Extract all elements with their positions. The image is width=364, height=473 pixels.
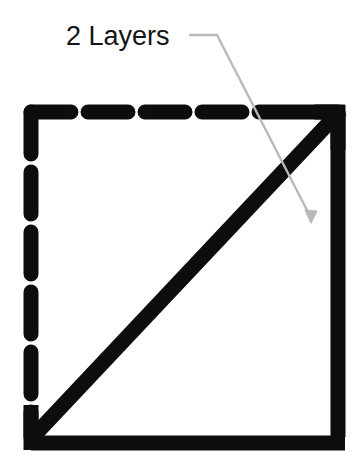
figure-canvas: 2 Layers <box>0 0 364 473</box>
callout-arrowhead-icon <box>305 210 317 223</box>
callout-label-2-layers: 2 Layers <box>66 20 170 52</box>
two-layers-diagram <box>0 0 364 473</box>
diagonal-line <box>30 110 341 440</box>
callout-leader-line <box>190 35 311 218</box>
